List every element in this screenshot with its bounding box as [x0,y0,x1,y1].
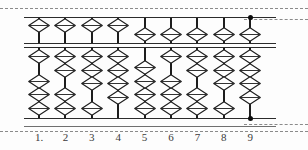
unit-marker-dot-top [248,15,253,20]
earth-bead-col-5-resting-3[interactable] [134,74,156,89]
abacus-figure: 1.23456789 [0,0,308,150]
dashed-guide-bottom-right [244,124,308,125]
earth-bead-col-1-resting-2[interactable] [28,87,50,102]
heaven-bead-col-4-up[interactable] [107,18,129,33]
earth-bead-col-6-resting-2[interactable] [160,87,182,102]
unit-marker-dot-bottom [248,116,253,121]
abacus-bottom-rail [24,118,276,119]
heaven-bead-col-6-down[interactable] [160,27,182,42]
column-label-1: 1. [27,131,51,143]
heaven-bead-col-1-up[interactable] [28,18,50,33]
heaven-bead-col-2-up[interactable] [54,18,76,33]
heaven-bead-col-7-down[interactable] [186,27,208,42]
column-label-5: 5 [133,131,157,143]
abacus-beam-upper-line [24,43,276,44]
earth-bead-col-5-resting-2[interactable] [134,87,156,102]
earth-bead-col-5-resting-1[interactable] [134,101,156,116]
earth-bead-col-1-resting-3[interactable] [28,74,50,89]
column-label-2: 2 [53,131,77,143]
heaven-bead-col-8-down[interactable] [213,27,235,42]
earth-bead-col-1-raised-1[interactable] [28,49,50,64]
earth-bead-col-8-raised-3[interactable] [213,76,235,91]
heaven-bead-col-3-up[interactable] [81,18,103,33]
earth-bead-col-2-raised-2[interactable] [54,63,76,78]
earth-bead-col-9-raised-4[interactable] [239,90,261,105]
column-label-3: 3 [80,131,104,143]
earth-bead-col-6-resting-3[interactable] [160,74,182,89]
earth-bead-col-5-resting-4[interactable] [134,60,156,75]
earth-bead-col-1-resting-1[interactable] [28,101,50,116]
earth-bead-col-7-resting-2[interactable] [186,87,208,102]
earth-bead-col-6-raised-1[interactable] [160,49,182,64]
earth-bead-col-2-resting-1[interactable] [54,101,76,116]
earth-bead-col-7-resting-1[interactable] [186,101,208,116]
heaven-bead-col-9-down[interactable] [239,27,261,42]
dashed-guide-top [0,8,308,9]
earth-bead-col-6-resting-1[interactable] [160,101,182,116]
column-label-6: 6 [159,131,183,143]
earth-bead-col-2-resting-2[interactable] [54,87,76,102]
earth-bead-col-3-resting-1[interactable] [81,101,103,116]
abacus-base-rail [24,126,276,127]
dashed-guide-top-right [244,19,308,20]
earth-bead-col-8-resting-1[interactable] [213,101,235,116]
column-label-9: 9 [238,131,262,143]
earth-bead-col-7-raised-2[interactable] [186,63,208,78]
heaven-bead-col-5-down[interactable] [134,27,156,42]
column-label-4: 4 [106,131,130,143]
earth-bead-col-4-raised-4[interactable] [107,90,129,105]
column-label-7: 7 [185,131,209,143]
earth-bead-col-3-raised-3[interactable] [81,76,103,91]
column-label-8: 8 [212,131,236,143]
